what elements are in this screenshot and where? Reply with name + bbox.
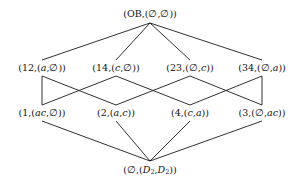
node-label-12: (12,(a,∅)) <box>18 63 66 73</box>
edge-top-n23 <box>150 23 190 60</box>
edge-n3-bot <box>150 121 262 161</box>
node-label-2: (2,(a,c)) <box>97 108 135 118</box>
edge-n1-bot <box>42 121 150 161</box>
edge-n4-bot <box>150 121 190 161</box>
node-label-4: (4,(c,a)) <box>171 108 209 118</box>
node-label-top: (OB,(∅,∅)) <box>123 9 177 19</box>
node-label-bottom: (∅,(D2,D2)) <box>123 165 176 176</box>
node-label-3: (3,(∅,ac)) <box>239 108 286 118</box>
hasse-diagram: (OB,(∅,∅)) (12,(a,∅)) (14,(c,∅)) (23,(∅,… <box>0 0 296 184</box>
node-label-23: (23,(∅,c)) <box>166 63 213 73</box>
node-label-34: (34,(∅,a)) <box>238 63 286 73</box>
node-label-1: (1,(ac,∅)) <box>19 108 66 118</box>
node-label-14: (14,(c,∅)) <box>92 63 139 73</box>
edge-top-n12 <box>42 23 150 60</box>
edge-top-n34 <box>150 23 262 60</box>
edge-layer <box>0 0 296 184</box>
